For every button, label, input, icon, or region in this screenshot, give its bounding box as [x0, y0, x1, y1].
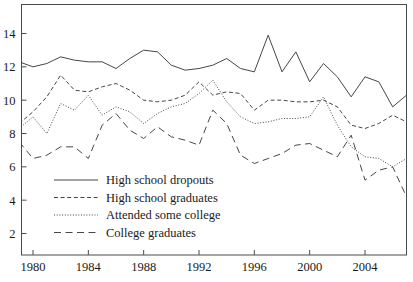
x-tick-label: 1984: [76, 260, 102, 274]
x-tick-label: 2000: [297, 260, 322, 274]
series-line-high-school-graduates: [19, 75, 406, 128]
line-chart: 2468101214 1980198419881992199620002004 …: [0, 0, 413, 282]
y-tick-label: 6: [9, 160, 15, 174]
y-tick-label: 8: [9, 127, 15, 141]
y-tick-label: 4: [9, 194, 16, 208]
y-tick-label: 12: [3, 60, 16, 74]
x-tick-label: 1980: [21, 260, 46, 274]
x-tick-label: 1988: [131, 260, 156, 274]
y-tick-label: 2: [9, 227, 15, 241]
chart-legend: High school dropoutsHigh school graduate…: [54, 173, 221, 240]
x-tick-label: 2004: [353, 260, 379, 274]
x-tick-label: 1992: [187, 260, 212, 274]
x-axis-ticks: 1980198419881992199620002004: [21, 250, 379, 274]
y-tick-label: 14: [3, 27, 16, 41]
legend-label-0: High school dropouts: [106, 173, 214, 187]
series-line-high-school-dropouts: [19, 35, 406, 107]
legend-label-2: Attended some college: [106, 208, 221, 222]
y-tick-label: 10: [3, 94, 16, 108]
y-axis-ticks: 2468101214: [3, 27, 27, 241]
legend-label-3: College graduates: [106, 226, 196, 240]
chart-canvas: 2468101214 1980198419881992199620002004 …: [0, 0, 413, 282]
x-tick-label: 1996: [242, 260, 267, 274]
legend-label-1: High school graduates: [106, 191, 218, 205]
